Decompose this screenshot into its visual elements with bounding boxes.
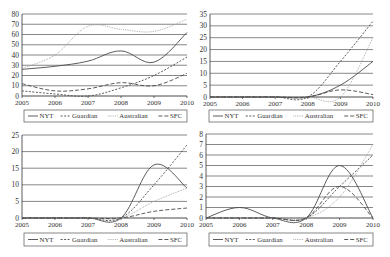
series-line-australian xyxy=(210,38,373,102)
legend-label: NYT xyxy=(225,112,240,119)
x-tick-label: 2010 xyxy=(180,221,195,229)
x-tick-label: 2006 xyxy=(236,100,251,108)
x-tick-label: 2006 xyxy=(48,99,63,107)
y-tick-label: 15 xyxy=(12,164,20,173)
series-line-sfc xyxy=(22,208,187,218)
x-tick-label: 2006 xyxy=(48,221,63,229)
y-tick-label: 3 xyxy=(199,182,203,191)
legend-label: SFC xyxy=(356,236,369,243)
y-tick-label: 30 xyxy=(200,21,208,30)
y-tick-label: 5 xyxy=(199,161,203,170)
series-line-guardian xyxy=(210,21,373,100)
x-tick-label: 2009 xyxy=(333,100,348,108)
x-tick-label: 2005 xyxy=(199,221,214,229)
y-tick-label: 40 xyxy=(12,51,20,60)
series-line-nyt xyxy=(22,32,187,69)
x-tick-label: 2007 xyxy=(266,221,281,229)
legend: NYTGuardianAustralianSFC xyxy=(24,233,187,246)
x-tick-label: 2009 xyxy=(147,99,162,107)
series-line-nyt xyxy=(206,166,373,223)
y-tick-label: 8 xyxy=(199,130,203,139)
legend: NYTGuardianAustralianSFC xyxy=(209,110,373,122)
legend-label: Guardian xyxy=(72,236,98,243)
legend-label: NYT xyxy=(225,236,240,243)
chart-panel-2: 05101520253035200520062007200820092010NY… xyxy=(200,10,381,122)
x-tick-label: 2010 xyxy=(180,99,195,107)
legend-label: Australian xyxy=(305,236,334,243)
legend: NYTGuardianAustralianSFC xyxy=(24,110,187,122)
series-line-australian xyxy=(22,19,187,68)
legend: NYTGuardianAustralianSFC xyxy=(209,233,373,246)
x-tick-label: 2007 xyxy=(81,221,96,229)
legend-label: NYT xyxy=(40,236,55,243)
legend-label: SFC xyxy=(170,236,183,243)
x-tick-label: 2007 xyxy=(268,100,283,108)
y-tick-label: 60 xyxy=(12,30,20,39)
y-tick-label: 2 xyxy=(199,193,203,202)
y-tick-label: 20 xyxy=(12,147,20,156)
x-tick-label: 2010 xyxy=(366,100,381,108)
x-tick-label: 2005 xyxy=(203,100,218,108)
x-tick-label: 2009 xyxy=(147,221,162,229)
series-line-sfc xyxy=(210,90,373,98)
legend-label: Australian xyxy=(305,112,334,119)
y-tick-label: 25 xyxy=(12,131,20,140)
legend-label: SFC xyxy=(170,112,183,119)
x-tick-label: 2007 xyxy=(81,99,96,107)
series-line-sfc xyxy=(206,187,373,221)
legend-label: Australian xyxy=(119,112,148,119)
y-tick-label: 4 xyxy=(199,172,203,181)
y-tick-label: 30 xyxy=(12,61,20,70)
x-tick-label: 2006 xyxy=(232,221,247,229)
x-tick-label: 2005 xyxy=(15,221,30,229)
x-tick-label: 2010 xyxy=(366,221,381,229)
x-tick-label: 2008 xyxy=(114,99,129,107)
y-tick-label: 10 xyxy=(200,69,208,78)
chart-panel-3: 0510152025200520062007200820092010NYTGua… xyxy=(12,131,195,246)
y-tick-label: 10 xyxy=(12,81,20,90)
series-line-nyt xyxy=(210,61,373,98)
legend-label: SFC xyxy=(356,112,369,119)
x-tick-label: 2008 xyxy=(301,100,316,108)
series-line-guardian xyxy=(206,155,373,221)
series-line-guardian xyxy=(22,57,187,96)
series-line-guardian xyxy=(22,145,187,221)
y-tick-label: 6 xyxy=(199,151,203,160)
y-tick-label: 20 xyxy=(12,71,20,80)
chart-panel-4: 012345678200520062007200820092010NYTGuar… xyxy=(199,130,381,246)
series-line-sfc xyxy=(22,73,187,91)
x-tick-label: 2008 xyxy=(114,221,129,229)
y-tick-label: 7 xyxy=(199,140,203,149)
y-tick-label: 5 xyxy=(203,81,207,90)
y-tick-label: 15 xyxy=(200,57,208,66)
y-tick-label: 1 xyxy=(199,203,203,212)
chart-grid: 0102030405060708020052006200720082009201… xyxy=(0,0,390,257)
y-tick-label: 5 xyxy=(15,197,19,206)
legend-label: Guardian xyxy=(257,112,283,119)
y-tick-label: 20 xyxy=(200,45,208,54)
legend-label: Guardian xyxy=(257,236,283,243)
y-tick-label: 80 xyxy=(12,10,20,19)
series-line-australian xyxy=(22,188,187,219)
legend-label: Guardian xyxy=(72,112,98,119)
y-tick-label: 70 xyxy=(12,20,20,29)
y-tick-label: 35 xyxy=(200,10,208,19)
x-tick-label: 2008 xyxy=(299,221,314,229)
chart-panel-1: 0102030405060708020052006200720082009201… xyxy=(12,10,195,122)
x-tick-label: 2009 xyxy=(333,221,348,229)
series-line-nyt xyxy=(22,164,187,222)
y-tick-label: 50 xyxy=(12,40,20,49)
legend-label: NYT xyxy=(40,112,55,119)
legend-label: Australian xyxy=(119,236,148,243)
y-tick-label: 10 xyxy=(12,180,20,189)
x-tick-label: 2005 xyxy=(15,99,30,107)
y-tick-label: 25 xyxy=(200,33,208,42)
